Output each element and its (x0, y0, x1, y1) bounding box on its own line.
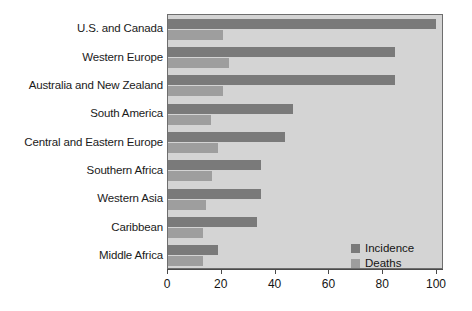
x-tick-100 (436, 269, 437, 274)
category-label-southern-africa: Southern Africa (0, 164, 163, 176)
legend-item-deaths[interactable]: Deaths (351, 256, 441, 269)
x-tick-label-60: 60 (322, 277, 335, 291)
chart-figure: U.S. and CanadaWestern EuropeAustralia a… (0, 0, 472, 311)
bar-incidence-southern-africa (168, 160, 261, 170)
legend-swatch-incidence-icon (351, 244, 360, 253)
bar-incidence-caribbean (168, 217, 257, 227)
x-tick-20 (221, 269, 222, 274)
x-tick-0 (167, 269, 168, 274)
category-axis-labels: U.S. and CanadaWestern EuropeAustralia a… (0, 14, 163, 269)
category-label-south-america: South America (0, 107, 163, 119)
legend-item-incidence[interactable]: Incidence (351, 241, 441, 255)
category-label-australia-and-new-zealand: Australia and New Zealand (0, 79, 163, 91)
category-label-central-and-eastern-europe: Central and Eastern Europe (0, 136, 163, 148)
category-label-caribbean: Caribbean (0, 221, 163, 233)
bar-deaths-western-asia (168, 200, 206, 210)
bar-deaths-southern-africa (168, 171, 212, 181)
x-tick-60 (328, 269, 329, 274)
bar-deaths-western-europe (168, 58, 229, 68)
bar-incidence-south-america (168, 104, 293, 114)
bar-deaths-u-s-and-canada (168, 30, 223, 40)
bar-incidence-middle-africa (168, 245, 218, 255)
plot-area: IncidenceDeaths (167, 14, 443, 269)
category-label-u-s-and-canada: U.S. and Canada (0, 22, 163, 34)
x-tick-label-20: 20 (214, 277, 227, 291)
bar-incidence-western-europe (168, 47, 395, 57)
bar-deaths-south-america (168, 115, 211, 125)
x-tick-label-0: 0 (164, 277, 171, 291)
bar-incidence-u-s-and-canada (168, 19, 436, 29)
category-label-western-asia: Western Asia (0, 192, 163, 204)
bar-deaths-caribbean (168, 228, 203, 238)
bar-incidence-australia-and-new-zealand (168, 75, 395, 85)
bar-deaths-australia-and-new-zealand (168, 86, 223, 96)
x-tick-80 (382, 269, 383, 274)
bar-incidence-western-asia (168, 189, 261, 199)
bar-deaths-middle-africa (168, 256, 203, 266)
x-tick-label-80: 80 (376, 277, 389, 291)
bars-container (168, 15, 442, 268)
chart-legend: IncidenceDeaths (351, 241, 441, 269)
x-tick-label-100: 100 (426, 277, 446, 291)
legend-label-incidence: Incidence (365, 242, 414, 254)
category-label-western-europe: Western Europe (0, 51, 163, 63)
bar-deaths-central-and-eastern-europe (168, 143, 218, 153)
legend-label-deaths: Deaths (365, 257, 401, 269)
x-tick-label-40: 40 (268, 277, 281, 291)
x-tick-40 (275, 269, 276, 274)
legend-swatch-deaths-icon (351, 259, 360, 268)
bar-incidence-central-and-eastern-europe (168, 132, 285, 142)
category-label-middle-africa: Middle Africa (0, 249, 163, 261)
x-axis: 020406080100 (167, 269, 443, 270)
